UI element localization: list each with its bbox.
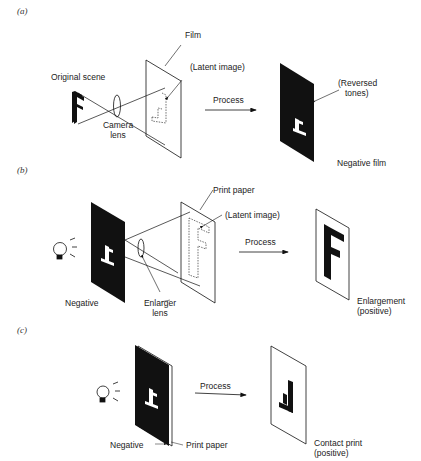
negative-film [280, 63, 314, 162]
label-enlarger-lens-2: lens [140, 308, 180, 318]
label-negative-c: Negative [110, 440, 144, 450]
light-bulb-icon [97, 382, 120, 402]
label-negative-film: Negative film [337, 158, 386, 168]
process-arrow-c [195, 393, 246, 395]
camera-lens-icon [114, 95, 121, 117]
label-enlargement-1: Enlargement [357, 296, 405, 306]
label-camera-lens-1: Camera [100, 120, 136, 130]
panel-label-a: (a) [17, 6, 28, 16]
label-process-b: Process [245, 237, 276, 247]
light-bulb-icon [54, 238, 78, 259]
positive-f-icon [324, 224, 344, 280]
label-reversed-1: (Reversed [338, 78, 377, 88]
original-scene-f-icon [72, 91, 84, 124]
label-print-paper-c: Print paper [186, 440, 228, 450]
panel-b [54, 190, 350, 303]
label-original-scene: Original scene [51, 72, 105, 82]
panel-label-c: (c) [17, 325, 27, 335]
label-process-c: Process [200, 381, 231, 391]
label-latent-image-a: (Latent image) [190, 62, 245, 72]
label-latent-image-b: (Latent image) [225, 210, 280, 220]
label-film: Film [185, 30, 201, 40]
label-contact-print-2: (positive) [314, 448, 348, 458]
film-plane [146, 60, 181, 158]
label-contact-print-1: Contact print [314, 438, 362, 448]
enlarger-lens-icon [138, 239, 144, 257]
panel-c [97, 345, 306, 446]
latent-image-a [152, 93, 166, 123]
label-reversed-2: tones) [345, 88, 369, 98]
panel-label-b: (b) [17, 165, 28, 175]
label-enlarger-lens-1: Enlarger [140, 298, 180, 308]
label-negative-b: Negative [65, 298, 99, 308]
label-process-a: Process [213, 95, 244, 105]
label-print-paper-b: Print paper [213, 185, 255, 195]
label-enlargement-2: (positive) [357, 306, 391, 316]
label-camera-lens-2: lens [100, 130, 136, 140]
